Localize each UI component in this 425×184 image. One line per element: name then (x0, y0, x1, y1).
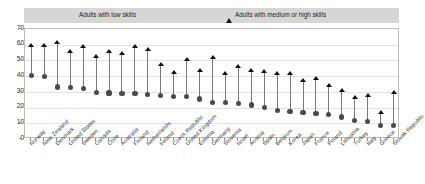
data-point-low-skills (365, 119, 370, 124)
data-point-low-skills (145, 92, 150, 97)
legend-label-medium-high-skills: Adults with medium or high skills (235, 12, 326, 18)
data-point-low-skills (339, 114, 344, 119)
connector-stem (147, 50, 148, 95)
connector-stem (31, 45, 32, 76)
connector-stem (315, 79, 316, 114)
data-point-low-skills (197, 96, 202, 101)
connector-stem (44, 45, 45, 76)
legend-label-low-skills: Adults with low skills (79, 12, 136, 18)
connector-stem (212, 57, 213, 102)
data-point-low-skills (106, 90, 111, 95)
data-point-medium-high-skills (80, 44, 86, 48)
connector-stem (341, 91, 342, 117)
connector-stem (290, 73, 291, 111)
y-axis-tick-mark (19, 75, 22, 76)
y-axis-tick-mark (19, 138, 22, 139)
connector-stem (121, 53, 122, 93)
connector-stem (303, 80, 304, 112)
data-point-medium-high-skills (171, 70, 177, 74)
data-point-low-skills (55, 84, 60, 89)
data-point-medium-high-skills (287, 71, 293, 75)
data-point-low-skills (391, 123, 396, 128)
data-point-low-skills (378, 123, 383, 128)
y-axis-tick-mark (19, 122, 22, 123)
data-point-medium-high-skills (28, 43, 34, 47)
data-point-medium-high-skills (300, 78, 306, 82)
connector-stem (70, 51, 71, 88)
data-point-medium-high-skills (132, 44, 138, 48)
data-point-low-skills (223, 100, 228, 105)
y-axis-tick-mark (19, 107, 22, 108)
connector-stem (393, 92, 394, 125)
data-point-medium-high-skills (313, 76, 319, 80)
data-point-medium-high-skills (93, 54, 99, 58)
connector-stem (251, 70, 252, 105)
data-point-medium-high-skills (222, 71, 228, 75)
connector-stem (96, 56, 97, 93)
data-point-medium-high-skills (235, 64, 241, 68)
legend-item-medium-high-skills: Adults with medium or high skills (226, 12, 326, 18)
y-axis: 010203040506070 (0, 0, 24, 184)
triangle-marker-icon (226, 12, 232, 18)
data-point-low-skills (275, 108, 280, 113)
data-point-low-skills (236, 101, 241, 106)
data-point-medium-high-skills (197, 68, 203, 72)
data-point-medium-high-skills (261, 69, 267, 73)
data-point-medium-high-skills (67, 49, 73, 53)
data-point-medium-high-skills (326, 83, 332, 87)
data-point-medium-high-skills (378, 110, 384, 114)
connector-stem (199, 70, 200, 99)
data-point-low-skills (249, 102, 254, 107)
data-point-medium-high-skills (158, 62, 164, 66)
data-point-medium-high-skills (274, 71, 280, 75)
connector-stem (134, 46, 135, 94)
data-point-low-skills (326, 112, 331, 117)
data-point-medium-high-skills (248, 68, 254, 72)
connector-stem (328, 85, 329, 114)
data-point-low-skills (287, 109, 292, 114)
data-point-low-skills (184, 94, 189, 99)
data-point-low-skills (81, 86, 86, 91)
connector-stem (83, 46, 84, 89)
data-point-medium-high-skills (106, 49, 112, 53)
legend-item-low-skills: Adults with low skills (76, 12, 136, 18)
data-point-medium-high-skills (41, 43, 47, 47)
connector-stem (57, 42, 58, 87)
connector-stem (173, 72, 174, 96)
data-point-low-skills (313, 111, 318, 116)
data-point-medium-high-skills (119, 51, 125, 55)
data-point-medium-high-skills (184, 57, 190, 61)
connector-stem (225, 73, 226, 102)
y-axis-tick-mark (19, 44, 22, 45)
connector-stem (160, 64, 161, 96)
data-point-medium-high-skills (339, 88, 345, 92)
data-point-low-skills (119, 91, 124, 96)
data-point-low-skills (29, 73, 34, 78)
y-axis-tick-mark (19, 28, 22, 29)
data-point-medium-high-skills (54, 40, 60, 44)
data-point-low-skills (171, 94, 176, 99)
connector-stem (264, 71, 265, 108)
y-axis-tick-mark (19, 91, 22, 92)
data-point-low-skills (210, 100, 215, 105)
data-point-low-skills (158, 93, 163, 98)
data-point-low-skills (352, 118, 357, 123)
data-point-low-skills (42, 74, 47, 79)
connector-stem (367, 96, 368, 121)
connector-stem (109, 51, 110, 93)
data-point-medium-high-skills (365, 93, 371, 97)
data-point-medium-high-skills (352, 95, 358, 99)
data-point-medium-high-skills (391, 90, 397, 94)
connector-stem (277, 73, 278, 111)
data-point-low-skills (300, 110, 305, 115)
connector-stem (238, 66, 239, 104)
data-point-low-skills (68, 85, 73, 90)
data-point-low-skills (262, 105, 267, 110)
chart-legend: Adults with low skills Adults with mediu… (24, 8, 399, 23)
connector-stem (354, 97, 355, 120)
connector-stem (186, 60, 187, 97)
data-point-low-skills (94, 90, 99, 95)
data-point-low-skills (132, 91, 137, 96)
data-point-medium-high-skills (145, 47, 151, 51)
